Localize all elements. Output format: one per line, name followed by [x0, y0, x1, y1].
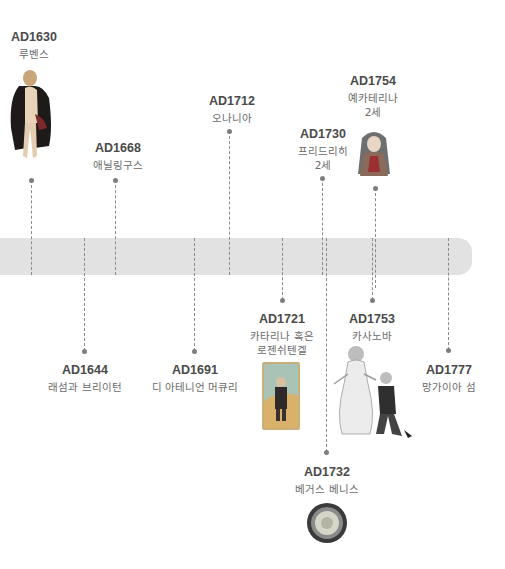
event-year: AD1754 [348, 73, 398, 89]
connector-1732 [326, 238, 327, 452]
event-1644: AD1644 래섬과 브리이턴 [48, 362, 121, 394]
event-name: 카타리나 혹은 [250, 329, 313, 343]
event-1777: AD1777 망가이아 섬 [422, 362, 475, 394]
event-1691: AD1691 디 아테니언 머큐리 [152, 362, 239, 394]
event-1721: AD1721 카타리나 혹은 로젠쉬텐겔 [250, 311, 313, 357]
dot-1730 [320, 176, 325, 181]
timeline-bar [0, 238, 472, 275]
event-year: AD1668 [93, 140, 143, 156]
event-year: AD1721 [250, 311, 313, 327]
dot-1644 [82, 349, 87, 354]
event-name: 래섬과 브리이턴 [48, 380, 121, 394]
event-year: AD1712 [209, 93, 255, 109]
event-1732: AD1732 베거스 베니스 [295, 464, 358, 496]
event-name-line2: 2세 [348, 105, 398, 119]
event-name: 카사노바 [349, 329, 395, 343]
dot-1721 [280, 298, 285, 303]
event-name: 베거스 베니스 [295, 482, 358, 496]
event-year: AD1691 [152, 362, 239, 378]
event-1753: AD1753 카사노바 [349, 311, 395, 343]
dot-1630 [29, 178, 34, 183]
event-name-line2: 로젠쉬텐겔 [250, 343, 313, 357]
dot-1754 [373, 186, 378, 191]
dot-1753 [370, 298, 375, 303]
event-year: AD1644 [48, 362, 121, 378]
event-year: AD1777 [422, 362, 475, 378]
dot-1668 [113, 178, 118, 183]
event-name: 디 아테니언 머큐리 [152, 380, 239, 394]
dot-1777 [446, 348, 451, 353]
event-name: 루벤스 [11, 47, 57, 61]
rubens-figure-illustration [5, 68, 55, 165]
katharina-card-illustration [262, 362, 300, 430]
event-name: 애닐링구스 [93, 158, 143, 172]
event-1630: AD1630 루벤스 [11, 29, 57, 61]
event-1712: AD1712 오나니아 [209, 93, 255, 125]
connector-1721 [282, 238, 283, 300]
event-1730: AD1730 프리드리히 2세 [298, 126, 348, 172]
connector-1668 [115, 180, 116, 275]
event-1668: AD1668 애닐링구스 [93, 140, 143, 172]
event-1754: AD1754 예카테리나 2세 [348, 73, 398, 119]
connector-1630 [31, 180, 32, 275]
dot-1691 [192, 349, 197, 354]
connector-1730 [322, 178, 323, 275]
event-year: AD1732 [295, 464, 358, 480]
casanova-couple-illustration [332, 344, 418, 440]
dot-1712 [227, 129, 232, 134]
connector-1691 [194, 238, 195, 351]
medal-illustration [306, 502, 348, 544]
event-name: 예카테리나 [348, 91, 398, 105]
ekaterina-portrait-illustration [352, 128, 396, 178]
event-name-line2: 2세 [298, 158, 348, 172]
event-name: 프리드리히 [298, 144, 348, 158]
event-year: AD1730 [298, 126, 348, 142]
connector-1777 [448, 238, 449, 350]
connector-1753 [372, 238, 373, 300]
event-year: AD1753 [349, 311, 395, 327]
dot-1732 [324, 450, 329, 455]
event-name: 망가이아 섬 [422, 380, 475, 394]
event-year: AD1630 [11, 29, 57, 45]
connector-1644 [84, 238, 85, 351]
connector-1712 [229, 131, 230, 275]
connector-1754 [375, 188, 376, 288]
event-name: 오나니아 [209, 111, 255, 125]
